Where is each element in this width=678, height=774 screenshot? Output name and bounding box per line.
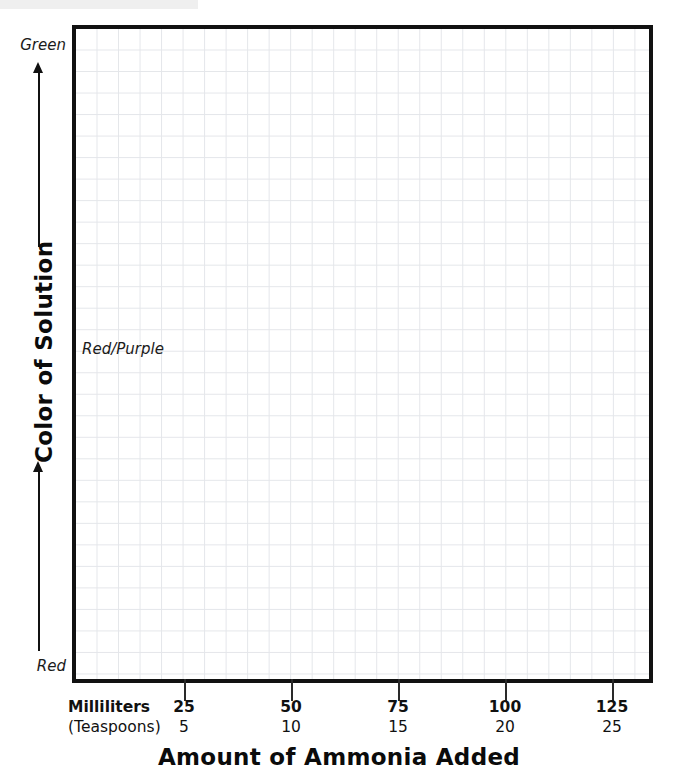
x-axis-tick-label-primary: 75 bbox=[363, 698, 433, 716]
x-axis-tick-label-secondary: 20 bbox=[470, 718, 540, 736]
x-axis-tick-label-primary: 25 bbox=[149, 698, 219, 716]
arrow-shaft bbox=[38, 70, 40, 247]
x-axis-tick-label-secondary: 5 bbox=[149, 718, 219, 736]
page-top-band bbox=[0, 0, 198, 9]
x-axis-tick-label-primary: 50 bbox=[256, 698, 326, 716]
x-axis-tick-label-primary: 100 bbox=[470, 698, 540, 716]
x-axis-title: Amount of Ammonia Added bbox=[0, 744, 678, 770]
x-axis-label-block: Milliliters (Teaspoons) 25 5 50 10 75 15… bbox=[0, 698, 678, 740]
x-axis-tick-label-primary: 125 bbox=[577, 698, 647, 716]
y-axis-bottom-label: Red bbox=[4, 657, 66, 675]
y-axis-middle-label: Red/Purple bbox=[82, 340, 164, 358]
arrow-shaft bbox=[38, 469, 40, 651]
arrow-up-icon bbox=[33, 62, 44, 247]
x-axis-tick-label-secondary: 10 bbox=[256, 718, 326, 736]
arrow-up-icon bbox=[33, 461, 44, 651]
y-axis-top-label: Green bbox=[4, 36, 66, 54]
x-axis-tick-label-secondary: 25 bbox=[577, 718, 647, 736]
x-axis-tick-label-secondary: 15 bbox=[363, 718, 433, 736]
y-axis-title: Color of Solution bbox=[31, 253, 57, 463]
